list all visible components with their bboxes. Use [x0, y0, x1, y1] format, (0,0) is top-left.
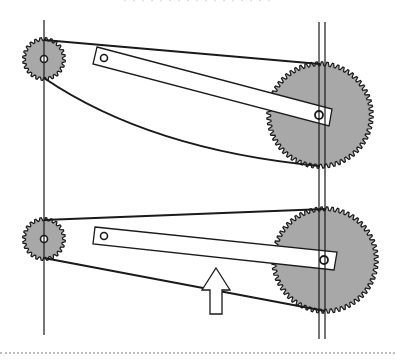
- dotted-divider: [0, 352, 395, 354]
- caption-text: · · · · · · · · · · · · · · · · ·: [0, 0, 395, 7]
- bar-pivot-hole: [101, 233, 108, 240]
- top-mechanism: [23, 38, 374, 169]
- belt-top-line: [44, 40, 320, 64]
- gear-belt-diagram: · · · · · · · · · · · · · · · · ·: [0, 0, 395, 360]
- large-gear-axle: [320, 256, 328, 264]
- diagram-canvas: [0, 0, 395, 360]
- bar-pivot-hole: [101, 55, 108, 62]
- belt-top-line: [44, 209, 325, 220]
- vertical-guide-lines: [44, 20, 325, 339]
- up-arrow-icon: [202, 268, 230, 314]
